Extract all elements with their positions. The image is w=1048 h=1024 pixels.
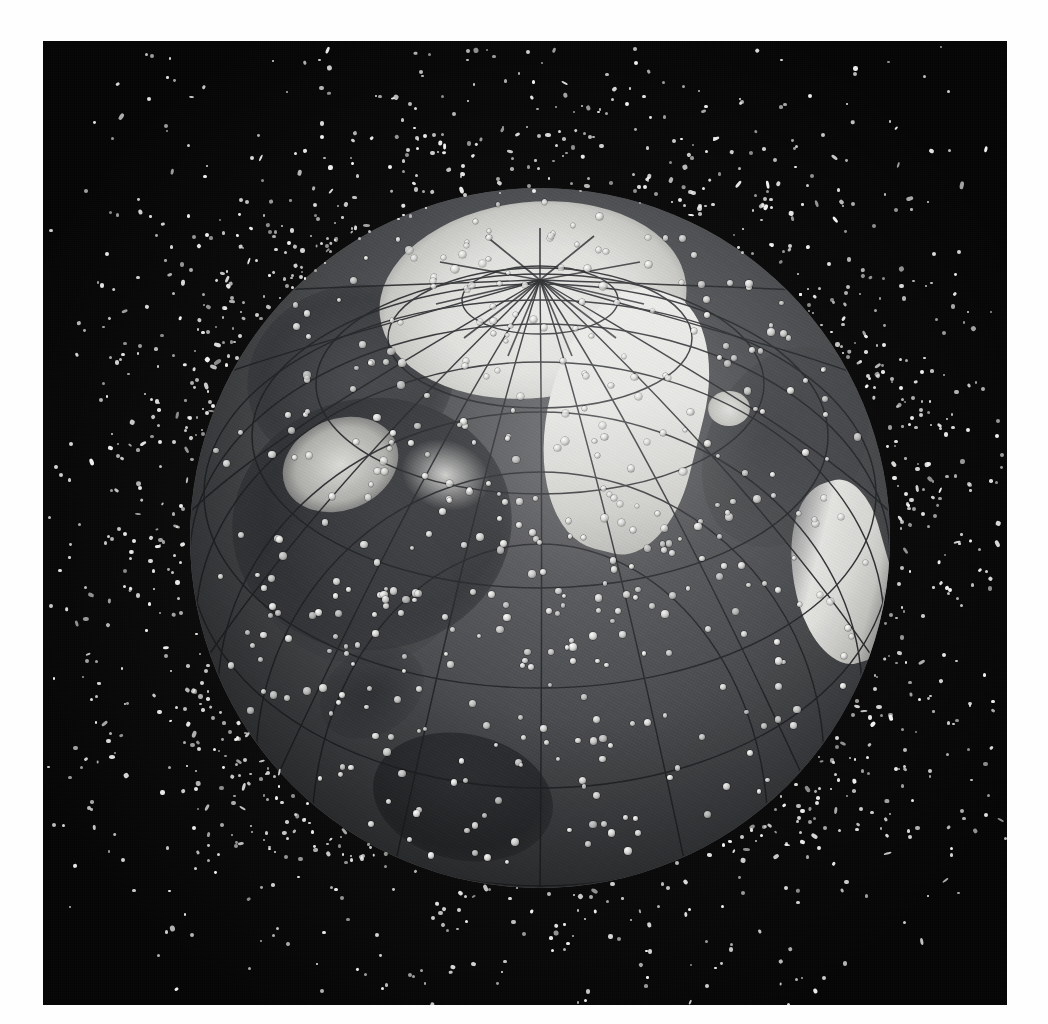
debris-object <box>239 198 243 202</box>
debris-object <box>581 155 585 159</box>
debris-object <box>323 157 325 159</box>
debris-object <box>705 150 708 153</box>
debris-object <box>909 498 914 503</box>
debris-object <box>605 73 609 77</box>
debris-object <box>263 295 265 297</box>
debris-object <box>424 982 427 985</box>
debris-object <box>896 161 900 168</box>
debris-object <box>123 342 127 346</box>
debris-object <box>49 604 53 608</box>
debris-object <box>876 704 882 708</box>
debris-object <box>173 79 176 82</box>
debris-object <box>939 427 942 430</box>
debris-object <box>263 214 265 216</box>
debris-object <box>140 440 147 446</box>
debris-object <box>903 921 906 924</box>
debris-object <box>207 844 210 847</box>
debris-object <box>100 720 107 727</box>
debris-object <box>938 486 943 493</box>
debris-object <box>827 262 831 266</box>
debris-object <box>475 143 479 147</box>
debris-object <box>160 790 165 795</box>
debris-object <box>954 474 957 477</box>
debris-object <box>866 756 869 759</box>
debris-object <box>884 799 889 803</box>
debris-object <box>705 984 709 988</box>
debris-object <box>467 141 472 146</box>
debris-object <box>202 408 204 410</box>
debris-object <box>996 520 1002 526</box>
debris-object <box>175 580 180 585</box>
debris-object <box>754 194 757 197</box>
debris-object <box>971 583 975 587</box>
debris-object <box>530 95 534 100</box>
debris-object <box>473 83 476 86</box>
debris-object <box>739 102 742 105</box>
debris-object <box>962 817 966 821</box>
debris-object <box>713 137 716 140</box>
debris-object <box>276 927 279 930</box>
debris-object <box>742 228 744 230</box>
debris-object <box>996 419 1000 423</box>
debris-object <box>741 251 744 254</box>
debris-object <box>947 90 950 93</box>
debris-object <box>106 739 111 744</box>
debris-object <box>108 316 112 320</box>
debris-object <box>356 174 360 178</box>
debris-object <box>499 192 501 194</box>
debris-object <box>136 481 141 486</box>
debris-object <box>592 136 595 139</box>
debris-object <box>611 98 614 101</box>
debris-object <box>561 80 569 85</box>
debris-object <box>238 334 242 338</box>
debris-object <box>246 257 251 265</box>
debris-object <box>847 350 852 354</box>
debris-object <box>900 527 902 529</box>
debris-object <box>843 302 848 307</box>
debris-object <box>511 920 516 925</box>
debris-object <box>297 876 300 879</box>
debris-object <box>83 757 88 761</box>
debris-object <box>856 822 861 827</box>
debris-object <box>886 445 889 448</box>
debris-object <box>981 387 985 391</box>
debris-object <box>657 905 660 908</box>
debris-object <box>187 214 190 217</box>
debris-object <box>68 478 72 482</box>
debris-object <box>233 341 235 343</box>
debris-object <box>417 138 419 140</box>
debris-object <box>245 200 249 204</box>
debris-object <box>534 159 537 162</box>
debris-object <box>283 277 287 281</box>
debris-object <box>813 817 816 820</box>
debris-object <box>909 570 912 573</box>
page <box>0 0 1048 1024</box>
debris-object <box>820 324 823 327</box>
debris-object <box>918 659 926 665</box>
debris-object <box>205 804 211 811</box>
debris-object <box>302 818 306 822</box>
debris-object <box>291 829 296 834</box>
debris-object <box>666 886 670 890</box>
debris-object <box>508 897 512 901</box>
debris-object <box>689 1000 693 1005</box>
debris-object <box>854 342 857 345</box>
debris-object <box>261 179 265 183</box>
debris-object <box>164 654 168 658</box>
debris-object <box>121 858 125 862</box>
debris-object <box>189 458 193 461</box>
debris-object <box>740 835 744 839</box>
debris-object <box>166 130 168 132</box>
debris-object <box>832 761 835 764</box>
debris-object <box>225 363 229 367</box>
debris-object <box>486 49 488 51</box>
debris-object <box>907 829 911 833</box>
debris-object <box>808 820 812 824</box>
debris-object <box>930 369 934 373</box>
debris-object <box>318 59 321 62</box>
debris-object <box>231 801 235 805</box>
debris-object <box>704 205 706 207</box>
debris-object <box>813 988 818 994</box>
debris-object <box>326 64 332 71</box>
debris-object <box>179 561 182 564</box>
